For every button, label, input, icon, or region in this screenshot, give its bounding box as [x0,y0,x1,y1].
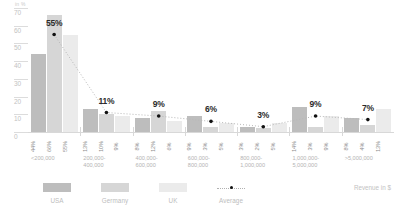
group-average-label: 9% [289,99,341,109]
bar-usa[interactable] [135,118,150,132]
bar-group: 7% [342,8,394,132]
x-axis-category-labels: <200,000200,000- 400,000400,000- 600,000… [28,155,394,177]
y-tick-label: 0 [14,133,28,140]
bar-value-cell: 9% [324,133,339,155]
category-label: 800,000- 1,000,000 [237,155,289,177]
bar-uk[interactable] [63,35,78,132]
bar-value-label: 13% [82,141,99,152]
bar-usa[interactable] [292,107,307,132]
bar-group: 9% [289,8,341,132]
bar-value-cell: 14% [292,133,307,155]
bar-usa[interactable] [344,118,359,132]
bar-value-cell: 8% [135,133,150,155]
bar-value-label: 13% [375,141,392,152]
bar-value-cell: 13% [376,133,391,155]
legend-label: Average [219,197,243,204]
bar-germany[interactable] [151,111,166,132]
bar-uk[interactable] [324,116,339,132]
bar-value-group: 9%3%5% [185,133,237,155]
bar-value-cell: 55% [63,133,78,155]
bar-group: 6% [185,8,237,132]
bar-value-cell: 9% [115,133,130,155]
bar-value-label: 3% [202,143,219,151]
bar-germany[interactable] [99,114,114,132]
y-tick-label: 50 [14,44,28,51]
bar-germany[interactable] [360,125,375,132]
bar-value-group: 3%2%5% [237,133,289,155]
bar-group: 55% [28,8,80,132]
bar-value-cell: 2% [256,133,271,155]
bar-value-label: 3% [239,143,256,151]
bar-value-label: 10% [98,141,115,152]
bar-value-label: 66% [46,141,63,152]
bar-value-cell: 66% [47,133,62,155]
bar-value-cell: 6% [167,133,182,155]
bar-value-cell: 5% [272,133,287,155]
legend-item-usa[interactable]: USA [28,183,86,204]
y-axis-unit-label: in % [15,1,26,7]
bar-value-label: 2% [255,143,272,151]
group-average-label: 7% [342,103,394,113]
bar-value-cell: 8% [344,133,359,155]
bar-value-group: 14%3%9% [289,133,341,155]
legend-swatch [159,183,187,192]
bar-usa[interactable] [31,54,46,132]
bar-value-label: 14% [291,141,308,152]
legend-item-uk[interactable]: UK [144,183,202,204]
bar-usa[interactable] [83,109,98,132]
legend-item-germany[interactable]: Germany [86,183,144,204]
bar-group: 9% [133,8,185,132]
bar-uk[interactable] [219,123,234,132]
bars [133,8,185,132]
bars [289,8,341,132]
bar-value-label: 9% [114,143,131,151]
bar-usa[interactable] [187,116,202,132]
bar-group: 11% [80,8,132,132]
legend-label: Germany [102,197,129,204]
y-tick-label: 70 [14,9,28,16]
category-label: <200,000 [28,155,80,177]
bar-uk[interactable] [167,121,182,132]
legend-label: UK [169,197,178,204]
legend-item-average[interactable]: Average [202,183,260,204]
legend: USAGermanyUKAverage [28,183,260,204]
bar-germany[interactable] [47,15,62,132]
bar-value-labels: 44%66%55%13%10%9%8%12%6%9%3%5%3%2%5%14%3… [28,133,394,155]
legend-average-marker-icon [217,183,245,192]
bar-value-cell: 4% [360,133,375,155]
bar-value-cell: 44% [31,133,46,155]
bar-value-label: 12% [150,141,167,152]
bar-value-cell: 9% [187,133,202,155]
category-label: 400,000- 600,000 [133,155,185,177]
y-tick-label: 40 [14,62,28,69]
bar-value-label: 8% [134,143,151,151]
bar-value-label: 5% [218,143,235,151]
bar-value-group: 44%66%55% [28,133,80,155]
chart-root: in % 706050403020100 55%11%9%6%3%9%7% 44… [0,0,397,214]
legend-swatch [43,183,71,192]
bar-uk[interactable] [115,116,130,132]
legend-label: USA [50,197,63,204]
bar-value-label: 3% [307,143,324,151]
bars [342,8,394,132]
y-tick-label: 10 [14,115,28,122]
bar-value-label: 9% [186,143,203,151]
bar-value-group: 8%4%13% [342,133,394,155]
bar-value-label: 9% [323,143,340,151]
x-axis-title: Revenue in $ [354,184,391,191]
bar-value-cell: 3% [240,133,255,155]
bar-value-group: 13%10%9% [80,133,132,155]
y-tick-label: 60 [14,27,28,34]
bar-value-cell: 10% [99,133,114,155]
legend-swatch [101,183,129,192]
bar-value-label: 5% [271,143,288,151]
bar-value-label: 6% [166,143,183,151]
bar-uk[interactable] [272,123,287,132]
group-average-label: 11% [80,96,132,106]
bar-value-label: 8% [343,143,360,151]
plot-area: 55%11%9%6%3%9%7% [28,8,394,132]
y-axis: in % 706050403020100 [0,0,28,134]
group-average-label: 55% [28,18,80,28]
bar-groups: 55%11%9%6%3%9%7% [28,8,394,132]
bar-value-group: 8%12%6% [133,133,185,155]
